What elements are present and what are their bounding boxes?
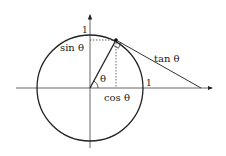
cos-label: cos θ bbox=[104, 92, 130, 103]
tan-label: tan θ bbox=[154, 53, 180, 64]
unit-circle-diagram: sin θ cos θ tan θ θ 1 1 bbox=[0, 0, 226, 156]
sin-label: sin θ bbox=[60, 42, 84, 53]
tangent-line bbox=[116, 40, 201, 88]
theta-arc bbox=[94, 81, 98, 88]
x-axis-one-label: 1 bbox=[146, 78, 152, 88]
theta-label: θ bbox=[100, 73, 106, 84]
y-axis-one-label: 1 bbox=[82, 25, 88, 35]
point-on-circle bbox=[114, 38, 118, 42]
